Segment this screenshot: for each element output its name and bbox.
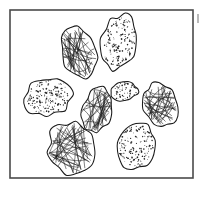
stone-texture-figure (0, 0, 206, 197)
figure-container (0, 0, 206, 197)
scan-edge-mark-icon (197, 14, 199, 23)
